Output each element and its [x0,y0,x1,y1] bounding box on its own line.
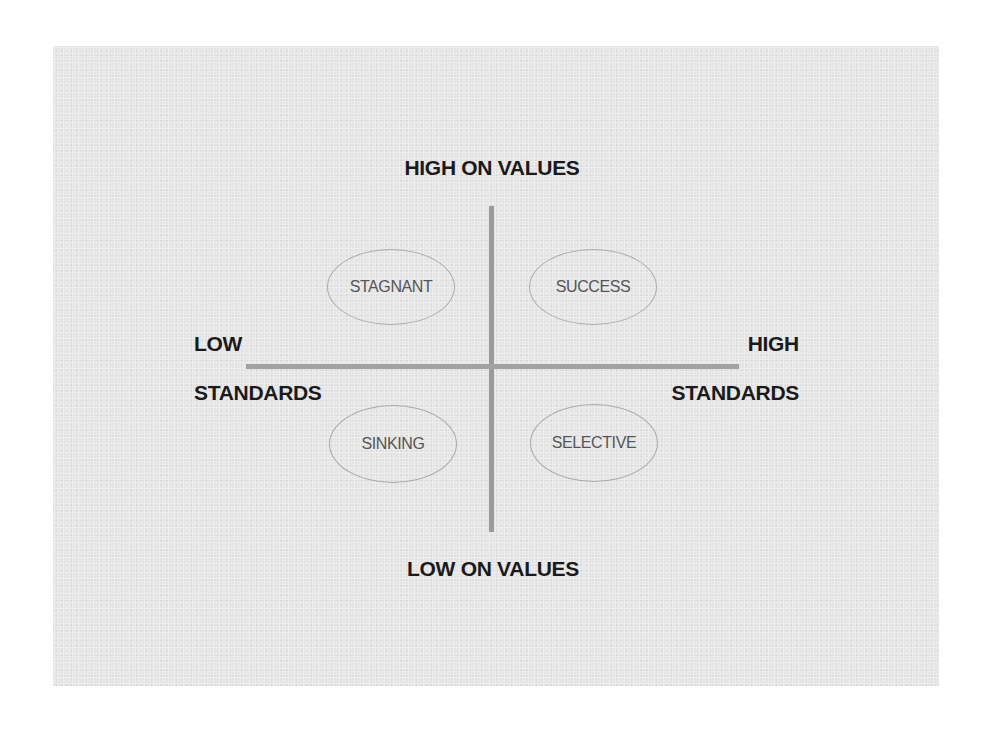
axis-label-high: HIGH [700,332,799,356]
axis-label-low: LOW [194,332,242,356]
quadrant-success: SUCCESS [529,249,657,325]
quadrant-label-sinking: SINKING [362,435,425,453]
quadrant-sinking: SINKING [329,405,457,483]
quadrant-label-stagnant: STAGNANT [350,278,433,296]
quadrant-selective: SELECTIVE [530,404,658,482]
vertical-axis-line [489,206,494,532]
axis-label-high-standards: STANDARDS [660,381,799,405]
axis-label-high-on-values: HIGH ON VALUES [398,156,586,180]
quadrant-label-success: SUCCESS [556,278,631,296]
quadrant-label-selective: SELECTIVE [552,434,636,452]
axis-label-low-on-values: LOW ON VALUES [400,557,586,581]
axis-label-low-standards: STANDARDS [194,381,322,405]
quadrant-stagnant: STAGNANT [327,249,455,325]
horizontal-axis-line [246,364,739,369]
